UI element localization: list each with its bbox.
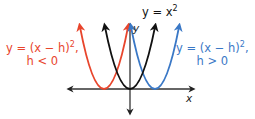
parabola-translation-diagram: y x y = x2 y = (x − h)2, h < 0 y = (x − … [0,0,255,119]
parabola-shifted-right [131,27,179,89]
parent-equation: y = x [142,5,173,19]
shift-right-condition: h > 0 [176,55,249,68]
shift-right-label: y = (x − h)2, h > 0 [176,42,249,68]
shift-left-condition: h < 0 [6,55,79,68]
shift-left-equation: y = (x − h) [6,41,70,55]
shift-left-suffix: , [75,41,79,55]
shift-right-suffix: , [245,41,249,55]
parent-function-label: y = x2 [142,6,178,19]
x-axis-label: x [186,92,192,105]
y-axis-label: y [133,22,139,35]
shift-right-equation: y = (x − h) [176,41,240,55]
parent-exponent: 2 [173,4,178,13]
shift-left-label: y = (x − h)2, h < 0 [6,42,79,68]
